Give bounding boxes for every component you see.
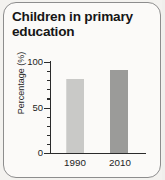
bar-chart: Percentage (%) 100 50 0 1990 2010 <box>0 0 165 180</box>
y-minor-tick-20 <box>47 135 52 136</box>
x-tick-label-2010: 2010 <box>103 157 137 168</box>
y-minor-tick-60 <box>47 98 52 99</box>
x-axis-line <box>50 153 146 154</box>
y-minor-tick-90 <box>47 71 52 72</box>
y-minor-tick-80 <box>47 80 52 81</box>
y-minor-tick-30 <box>47 126 52 127</box>
bar-1990 <box>66 79 84 153</box>
y-tick-label-0: 0 <box>13 147 43 158</box>
x-tick-label-1990: 1990 <box>58 157 92 168</box>
y-minor-tick-40 <box>47 117 52 118</box>
y-tick-50 <box>44 108 51 109</box>
y-tick-0 <box>44 153 51 154</box>
y-tick-label-50: 50 <box>13 102 43 113</box>
y-minor-tick-70 <box>47 89 52 90</box>
y-tick-100 <box>44 62 51 63</box>
bar-2010 <box>110 70 128 153</box>
y-tick-label-100: 100 <box>13 56 43 67</box>
y-minor-tick-10 <box>47 144 52 145</box>
